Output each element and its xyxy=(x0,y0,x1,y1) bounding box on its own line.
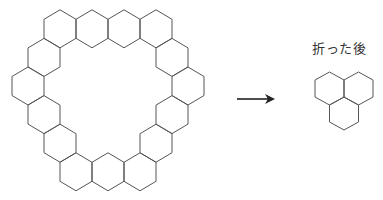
right-arrow-icon xyxy=(237,94,275,104)
ring-hexagon xyxy=(28,96,60,134)
ring-hexagon xyxy=(76,10,108,48)
cluster-hexagon xyxy=(330,97,359,130)
cluster-hexagon xyxy=(315,72,344,105)
ring-hexagon xyxy=(12,67,44,105)
hexagon-cluster-after-folding xyxy=(315,72,373,130)
ring-hexagon xyxy=(92,153,124,191)
ring-hexagon xyxy=(156,96,188,134)
ring-hexagon xyxy=(156,38,188,76)
cluster-hexagon xyxy=(344,72,373,105)
ring-hexagon xyxy=(44,10,76,48)
hexagon-ring-before-folding xyxy=(12,10,204,191)
ring-hexagon xyxy=(60,153,92,191)
ring-hexagon xyxy=(172,67,204,105)
ring-hexagon xyxy=(44,124,76,162)
ring-hexagon xyxy=(140,124,172,162)
after-folding-label: 折った後 xyxy=(312,38,366,57)
ring-hexagon xyxy=(140,10,172,48)
ring-hexagon xyxy=(28,38,60,76)
diagram-canvas xyxy=(0,0,383,200)
ring-hexagon xyxy=(108,10,140,48)
ring-hexagon xyxy=(124,153,156,191)
